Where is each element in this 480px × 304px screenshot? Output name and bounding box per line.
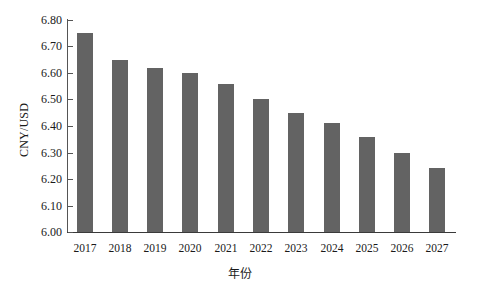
x-tick-label: 2017 xyxy=(65,241,105,255)
y-tick-label: 6.80 xyxy=(22,14,62,26)
bar xyxy=(182,73,198,232)
y-tick-label: 6.30 xyxy=(22,147,62,159)
x-tick-label: 2020 xyxy=(170,241,210,255)
y-tick-label: 6.70 xyxy=(22,40,62,52)
y-tick-label: 6.50 xyxy=(22,93,62,105)
x-tick-label: 2025 xyxy=(347,241,387,255)
bar-chart-figure: CNY/USD 6.806.706.606.506.406.306.206.10… xyxy=(0,0,480,304)
y-tick-label: 6.20 xyxy=(22,173,62,185)
bar xyxy=(77,33,93,232)
bar xyxy=(324,123,340,232)
y-tick-label-text: 6.70 xyxy=(24,40,62,52)
y-tick-label: 6.00 xyxy=(22,226,62,238)
x-axis-line xyxy=(67,232,456,233)
x-tick-label: 2027 xyxy=(417,241,457,255)
x-tick-label: 2026 xyxy=(382,241,422,255)
y-tick-label: 6.10 xyxy=(22,200,62,212)
bar xyxy=(359,137,375,232)
x-tick-label: 2021 xyxy=(206,241,246,255)
bar xyxy=(394,153,410,232)
bar xyxy=(429,168,445,232)
y-tick-label-text: 6.40 xyxy=(24,120,62,132)
y-tick-label-text: 6.00 xyxy=(24,226,62,238)
plot-area xyxy=(67,20,455,232)
bar xyxy=(253,99,269,232)
bar xyxy=(112,60,128,232)
y-tick-mark xyxy=(68,232,73,233)
bar xyxy=(288,113,304,232)
bar xyxy=(218,84,234,232)
x-tick-label: 2018 xyxy=(100,241,140,255)
x-tick-label: 2024 xyxy=(312,241,352,255)
x-tick-label: 2023 xyxy=(276,241,316,255)
x-axis-title: 年份 xyxy=(0,266,480,282)
y-tick-label-text: 6.80 xyxy=(24,14,62,26)
y-tick-label: 6.60 xyxy=(22,67,62,79)
y-tick-label-text: 6.30 xyxy=(24,147,62,159)
bar xyxy=(147,68,163,232)
y-tick-label-text: 6.20 xyxy=(24,173,62,185)
x-tick-label: 2019 xyxy=(135,241,175,255)
y-tick-label: 6.40 xyxy=(22,120,62,132)
y-tick-label-text: 6.10 xyxy=(24,200,62,212)
y-tick-label-text: 6.50 xyxy=(24,93,62,105)
y-tick-label-text: 6.60 xyxy=(24,67,62,79)
x-tick-label: 2022 xyxy=(241,241,281,255)
